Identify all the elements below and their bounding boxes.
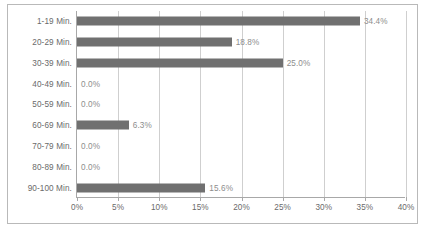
gridline: [406, 11, 407, 197]
category-label: 80-89 Min.: [32, 162, 72, 171]
x-axis-tick-label: 15%: [192, 203, 209, 212]
bar-value-label: 0.0%: [81, 100, 100, 109]
category-label: 1-19 Min.: [37, 17, 72, 26]
bar-value-label: 6.3%: [133, 121, 152, 130]
bar-row: 1-19 Min.34.4%: [77, 11, 405, 32]
x-axis-tick-label: 40%: [398, 203, 415, 212]
bar-row: 80-89 Min.0.0%: [77, 156, 405, 177]
bar-value-label: 34.4%: [364, 17, 388, 26]
bar-row: 30-39 Min.25.0%: [77, 53, 405, 74]
x-axis-tick-label: 0%: [71, 203, 83, 212]
bar-row: 50-59 Min.0.0%: [77, 94, 405, 115]
x-axis-tick-label: 5%: [112, 203, 124, 212]
bar-value-label: 0.0%: [81, 79, 100, 88]
bar-value-label: 0.0%: [81, 142, 100, 151]
bar: [77, 183, 205, 192]
chart-frame: 0%5%10%15%20%25%30%35%40%1-19 Min.34.4%2…: [7, 4, 418, 224]
bar: [77, 58, 283, 67]
plot-area: 0%5%10%15%20%25%30%35%40%1-19 Min.34.4%2…: [76, 11, 405, 198]
x-axis-tick-label: 25%: [274, 203, 291, 212]
category-label: 30-39 Min.: [32, 58, 72, 67]
category-label: 20-29 Min.: [32, 38, 72, 47]
bar-row: 70-79 Min.0.0%: [77, 136, 405, 157]
x-axis-tick-label: 30%: [315, 203, 332, 212]
x-axis-tick-mark: [406, 197, 407, 201]
bar-row: 90-100 Min.15.6%: [77, 177, 405, 198]
bar-value-label: 15.6%: [209, 183, 233, 192]
bar-value-label: 25.0%: [287, 58, 311, 67]
bar-value-label: 18.8%: [236, 38, 260, 47]
category-label: 60-69 Min.: [32, 121, 72, 130]
category-label: 50-59 Min.: [32, 100, 72, 109]
category-label: 70-79 Min.: [32, 142, 72, 151]
category-label: 40-49 Min.: [32, 79, 72, 88]
x-axis-tick-label: 10%: [151, 203, 168, 212]
x-axis-tick-label: 20%: [233, 203, 250, 212]
bar-row: 40-49 Min.0.0%: [77, 73, 405, 94]
bar-value-label: 0.0%: [81, 162, 100, 171]
bar-row: 20-29 Min.18.8%: [77, 32, 405, 53]
category-label: 90-100 Min.: [28, 183, 72, 192]
bar-row: 60-69 Min.6.3%: [77, 115, 405, 136]
x-axis-tick-label: 35%: [357, 203, 374, 212]
bar: [77, 121, 129, 130]
bar: [77, 38, 232, 47]
bar: [77, 17, 360, 26]
